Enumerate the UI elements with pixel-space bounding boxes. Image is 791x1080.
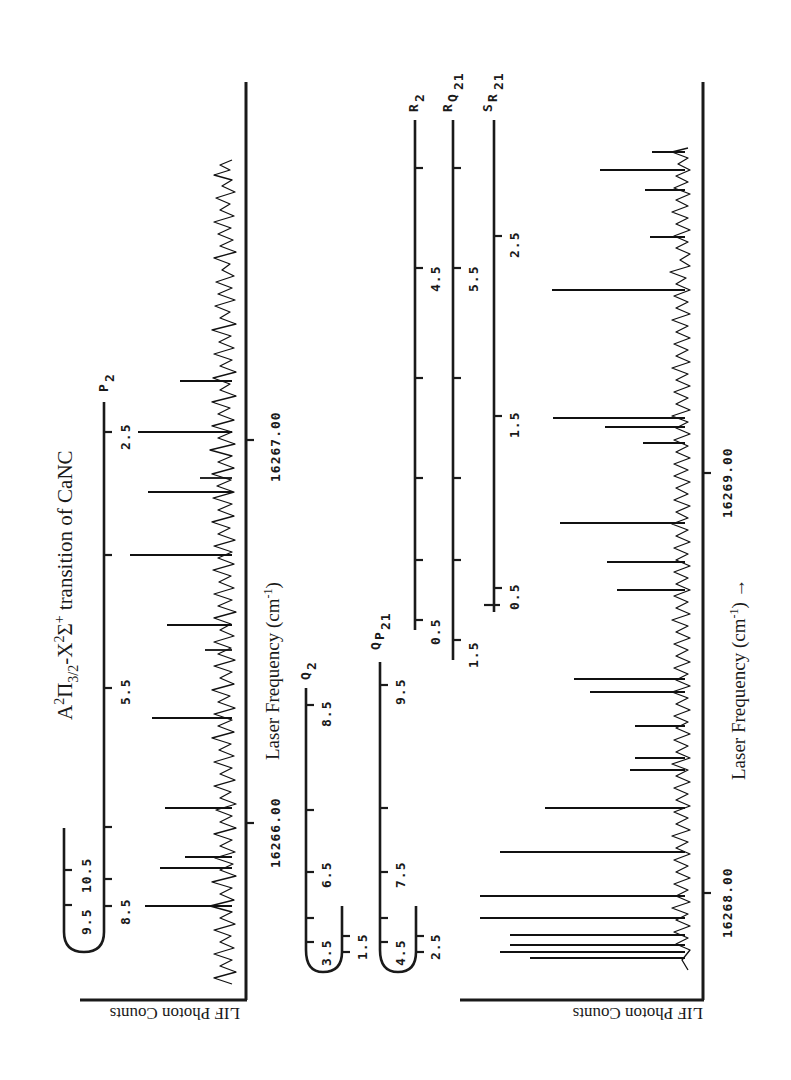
svg-text:0.5: 0.5 bbox=[507, 584, 522, 610]
svg-text:1.5: 1.5 bbox=[466, 642, 481, 668]
svg-text:R: R bbox=[440, 103, 455, 112]
svg-text:4.5: 4.5 bbox=[428, 266, 443, 292]
svg-text:1.5: 1.5 bbox=[507, 412, 522, 438]
branch-qp21: Q P 21 9.5 7.5 4.5 2.5 bbox=[368, 612, 443, 972]
bottom-spectrum-trace bbox=[670, 148, 690, 970]
svg-text:R: R bbox=[485, 93, 500, 102]
bottom-tick-16269: 16269.00 bbox=[720, 447, 735, 518]
svg-text:2: 2 bbox=[412, 93, 427, 102]
svg-text:0.5: 0.5 bbox=[428, 619, 443, 645]
top-spectrum-trace bbox=[210, 160, 236, 984]
svg-text:8.5: 8.5 bbox=[319, 701, 334, 727]
figure-title: A2Π3/2-X2Σ+ transition of CaNC bbox=[52, 450, 81, 720]
top-xlabel: Laser Frequency (cm-1) bbox=[261, 582, 284, 760]
branch-q2: Q 2 8.5 6.5 3.5 1.5 bbox=[298, 661, 370, 972]
svg-text:P: P bbox=[96, 383, 111, 392]
svg-text:9.5: 9.5 bbox=[79, 909, 94, 935]
svg-text:5.5: 5.5 bbox=[118, 679, 133, 705]
svg-text:10.5: 10.5 bbox=[79, 858, 94, 893]
svg-text:8.5: 8.5 bbox=[118, 899, 133, 925]
branch-sr21: S R 21 2.5 1.5 0.5 bbox=[480, 72, 522, 612]
svg-text:5.5: 5.5 bbox=[466, 266, 481, 292]
svg-text:R: R bbox=[406, 103, 421, 112]
svg-text:6.5: 6.5 bbox=[319, 862, 334, 888]
branch-r2: R 2 4.5 0.5 bbox=[406, 93, 443, 645]
svg-text:21: 21 bbox=[378, 612, 393, 630]
svg-text:Q: Q bbox=[445, 93, 460, 102]
top-tick-16266: 16266.00 bbox=[268, 797, 283, 868]
svg-text:7.5: 7.5 bbox=[393, 862, 408, 888]
spectrum-figure: A2Π3/2-X2Σ+ transition of CaNC 16266.00 … bbox=[0, 0, 791, 1080]
svg-text:Q: Q bbox=[298, 671, 313, 680]
bottom-tick-16268: 16268.00 bbox=[720, 867, 735, 938]
bottom-xlabel: Laser Frequency (cm-1) → bbox=[727, 578, 750, 780]
branch-rq21: R Q 21 5.5 1.5 bbox=[440, 72, 481, 668]
top-panel: 16266.00 16267.00 Laser Frequency (cm-1)… bbox=[64, 82, 443, 1023]
svg-text:2.5: 2.5 bbox=[428, 934, 443, 960]
svg-text:21: 21 bbox=[451, 72, 466, 90]
bottom-panel: 16268.00 16269.00 Laser Frequency (cm-1)… bbox=[406, 72, 750, 1023]
svg-text:2.5: 2.5 bbox=[118, 424, 133, 450]
top-ylabel: LIF Photon Counts bbox=[110, 1004, 240, 1023]
svg-text:21: 21 bbox=[491, 72, 506, 90]
top-tick-16267: 16267.00 bbox=[268, 411, 283, 482]
bottom-peaks bbox=[480, 152, 685, 958]
svg-text:4.5: 4.5 bbox=[393, 940, 408, 966]
svg-text:Q: Q bbox=[368, 641, 383, 650]
svg-text:3.5: 3.5 bbox=[319, 940, 334, 966]
svg-text:9.5: 9.5 bbox=[393, 679, 408, 705]
svg-text:2.5: 2.5 bbox=[507, 232, 522, 258]
svg-text:1.5: 1.5 bbox=[355, 934, 370, 960]
svg-text:A2Π3/2-X2Σ+ transition of CaNC: A2Π3/2-X2Σ+ transition of CaNC bbox=[52, 450, 81, 720]
svg-text:2: 2 bbox=[304, 661, 319, 670]
svg-text:P: P bbox=[372, 631, 387, 640]
bottom-ylabel: LIF Photon Counts bbox=[573, 1004, 703, 1023]
svg-text:2: 2 bbox=[102, 373, 117, 382]
svg-text:S: S bbox=[480, 103, 495, 112]
